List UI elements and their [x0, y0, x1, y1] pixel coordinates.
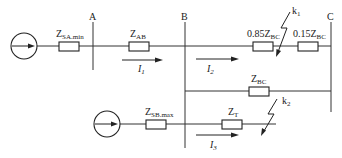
bus-c-label: C — [327, 11, 334, 22]
label-i3: I3 — [209, 139, 217, 152]
label-zsb-max: ZSB.max — [145, 106, 174, 119]
label-k2: k2 — [282, 95, 291, 108]
bus-a-label: A — [89, 11, 97, 22]
arrow-head-icon — [231, 133, 239, 138]
impedance-zsb-max: ZSB.max — [145, 106, 174, 129]
arrow-head-icon — [155, 58, 163, 63]
bus-b-label: B — [181, 11, 188, 22]
bus-a: A — [89, 11, 97, 70]
arrow-head-icon — [231, 57, 239, 62]
single-line-diagram: ZSA.min A ZAB I1 B I2 0.85ZBC 0.15ZBC — [0, 0, 342, 158]
current-i2: I2 — [196, 57, 239, 77]
label-zt: ZT — [228, 106, 239, 119]
bus-b: B — [181, 11, 188, 148]
impedance-zt: ZT — [222, 106, 242, 129]
impedance-zbc-085: 0.85ZBC — [247, 28, 280, 51]
current-i1: I1 — [122, 58, 163, 77]
label-zbc-015: 0.15ZBC — [293, 28, 326, 41]
label-i1: I1 — [137, 63, 145, 76]
label-zbc-parallel: ZBC — [251, 73, 267, 86]
label-zsa-min: ZSA.min — [56, 28, 84, 41]
source-sb — [94, 111, 120, 137]
fault-k2: k2 — [261, 95, 291, 136]
impedance-zbc-015: 0.15ZBC — [293, 28, 326, 51]
impedance-zsa-min: ZSA.min — [56, 28, 84, 51]
label-k1: k1 — [292, 5, 301, 18]
arrow-head-icon — [276, 49, 281, 57]
label-i2: I2 — [206, 63, 214, 76]
current-i3: I3 — [196, 133, 239, 153]
label-zbc-085: 0.85ZBC — [247, 28, 280, 41]
source-sa — [11, 33, 37, 59]
lightning-icon — [264, 99, 277, 131]
bus-c: C — [327, 11, 334, 112]
impedance-zbc-parallel: ZBC — [249, 73, 269, 96]
impedance-zab: ZAB — [129, 28, 149, 51]
label-zab: ZAB — [130, 28, 146, 41]
